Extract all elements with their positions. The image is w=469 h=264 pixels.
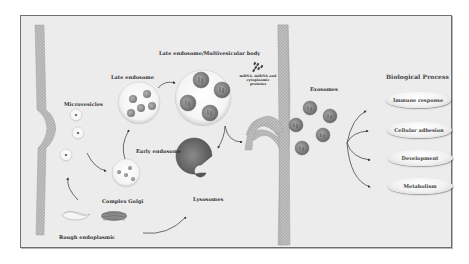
right-plasma-membrane <box>245 25 290 245</box>
process-development: Development <box>387 150 453 166</box>
label-biological-process: Biological Process <box>386 73 449 80</box>
label-early-endosome: Early endosome <box>136 148 181 154</box>
microvesicles <box>60 109 84 161</box>
left-plasma-membrane <box>35 25 56 235</box>
rough-endoplasmic-reticulum <box>62 211 90 220</box>
exosomes <box>289 101 337 155</box>
golgi-apparatus <box>101 211 127 221</box>
process-immune-response: Immune response <box>385 92 451 108</box>
process-cellular-adhesion: Cellular adhesion <box>386 122 452 138</box>
label-complex-golgi: Complex Golgi <box>102 198 143 204</box>
label-late-endosome-mvb: Late endosome/Multivesicular body <box>159 50 260 56</box>
label-microvesicles: Microvesicles <box>64 101 103 107</box>
label-lysosomes: Lysosomes <box>193 196 223 202</box>
label-cargo: mRNA, miRNA and cytoplasmic proteins <box>238 74 278 86</box>
lysosome <box>176 138 212 177</box>
multivesicular-body <box>175 70 231 126</box>
process-metabolism: Metabolism <box>387 178 453 194</box>
label-late-endosome: Late endosome <box>111 74 154 80</box>
late-endosome <box>118 82 160 124</box>
label-exosomes: Exosomes <box>310 86 338 92</box>
label-rough-er: Rough endoplasmic <box>59 234 115 240</box>
cargo-molecules-icon <box>252 62 263 73</box>
early-endosome <box>112 159 140 187</box>
